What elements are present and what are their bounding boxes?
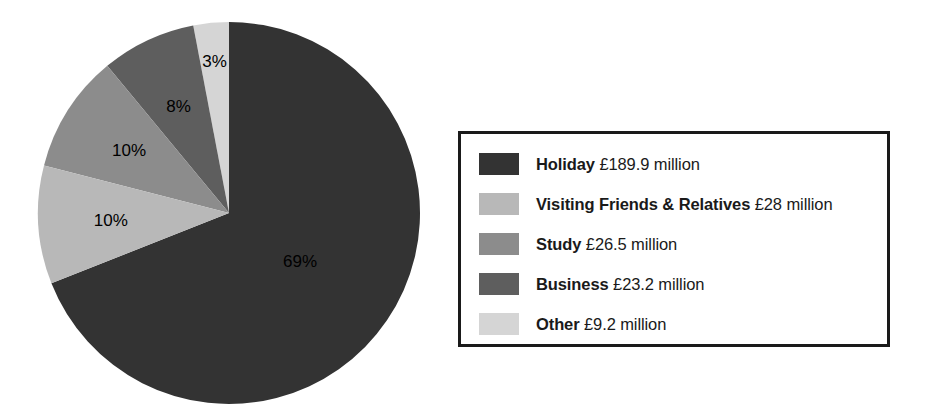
pie-slice-percent-label: 3% <box>202 52 227 71</box>
legend-category-name: Business <box>536 275 609 293</box>
pie-slice-percent-label: 10% <box>112 141 146 160</box>
legend-category-name: Holiday <box>536 155 595 173</box>
legend-row[interactable]: Other £9.2 million <box>479 304 879 344</box>
legend-list: Holiday £189.9 millionVisiting Friends &… <box>479 144 879 344</box>
legend-row[interactable]: Holiday £189.9 million <box>479 144 879 184</box>
legend-category-value: £26.5 million <box>581 235 677 253</box>
legend-label: Other £9.2 million <box>536 315 666 333</box>
legend-label: Business £23.2 million <box>536 275 704 293</box>
legend-category-name: Other <box>536 315 580 333</box>
legend-category-value: £9.2 million <box>580 315 667 333</box>
pie-slice-percent-label: 10% <box>94 211 128 230</box>
legend-color-swatch <box>479 273 519 295</box>
legend-color-swatch <box>479 233 519 255</box>
legend-row[interactable]: Study £26.5 million <box>479 224 879 264</box>
legend-label: Study £26.5 million <box>536 235 677 253</box>
legend-label: Visiting Friends & Relatives £28 million <box>536 195 832 213</box>
legend-color-swatch <box>479 153 519 175</box>
legend-category-value: £28 million <box>750 195 832 213</box>
pie-slice-percent-label: 69% <box>283 252 317 271</box>
legend-category-name: Study <box>536 235 581 253</box>
legend-row[interactable]: Visiting Friends & Relatives £28 million <box>479 184 879 224</box>
legend-category-value: £189.9 million <box>595 155 700 173</box>
legend-category-value: £23.2 million <box>609 275 705 293</box>
legend-box: Holiday £189.9 millionVisiting Friends &… <box>458 131 890 347</box>
legend-color-swatch <box>479 313 519 335</box>
pie-slice-percent-label: 8% <box>166 97 191 116</box>
pie-chart-plot: 69%3%8%10%10% <box>0 0 450 417</box>
legend-category-name: Visiting Friends & Relatives <box>536 195 750 213</box>
legend-label: Holiday £189.9 million <box>536 155 700 173</box>
legend-color-swatch <box>479 193 519 215</box>
legend-row[interactable]: Business £23.2 million <box>479 264 879 304</box>
pie-chart-svg: 69%3%8%10%10% <box>0 0 450 417</box>
pie-chart-figure: 69%3%8%10%10% Holiday £189.9 millionVisi… <box>0 0 928 417</box>
